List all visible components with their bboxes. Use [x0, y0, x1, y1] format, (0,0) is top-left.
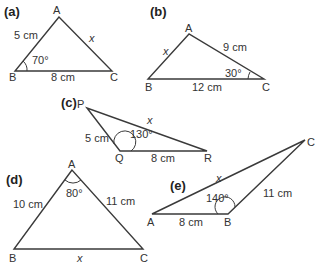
- angle-q-label: 130°: [130, 128, 153, 140]
- vertex-b: B: [224, 216, 231, 228]
- side-ab-label: 10 cm: [13, 198, 43, 210]
- vertex-c: C: [140, 252, 148, 264]
- side-ac-label: 9 cm: [223, 41, 247, 53]
- angle-arc-a: [65, 180, 81, 183]
- side-ac-label: 11 cm: [106, 195, 135, 207]
- part-label-a: (a): [4, 4, 20, 19]
- side-ab-label: 5 cm: [14, 29, 38, 41]
- vertex-r: R: [204, 152, 212, 164]
- side-bc-label: x: [76, 252, 83, 264]
- vertex-a: A: [68, 158, 76, 170]
- part-label-e: (e): [170, 178, 186, 193]
- part-label-d: (d): [6, 172, 23, 187]
- part-label-c: (c): [61, 95, 77, 110]
- vertex-a: A: [147, 216, 155, 228]
- angle-b-label: 70°: [32, 54, 49, 66]
- angle-c-label: 30°: [225, 67, 242, 79]
- triangle-a-edges: [15, 17, 112, 71]
- side-ab-label: x: [162, 45, 169, 57]
- vertex-a: A: [185, 22, 193, 34]
- side-bc-label: 12 cm: [192, 81, 222, 93]
- vertex-p: P: [77, 98, 84, 110]
- vertex-c: C: [110, 71, 118, 83]
- side-ab-label: 8 cm: [179, 216, 203, 228]
- triangle-d: (d) A B C 10 cm 11 cm x 80°: [6, 158, 148, 264]
- triangles-diagram: (a) A B C 5 cm x 8 cm 70° (b) A B C x 9 …: [0, 0, 315, 267]
- angle-b-label: 140°: [206, 192, 229, 204]
- vertex-b: B: [9, 252, 16, 264]
- side-ac-label: x: [88, 32, 95, 44]
- angle-a-label: 80°: [66, 187, 83, 199]
- vertex-q: Q: [115, 152, 124, 164]
- angle-arc-b: [23, 61, 27, 71]
- side-qr-label: 8 cm: [151, 152, 175, 164]
- side-bc-label: 11 cm: [263, 187, 292, 199]
- triangle-b: (b) A B C x 9 cm 12 cm 30°: [145, 4, 270, 93]
- triangle-a: (a) A B C 5 cm x 8 cm 70°: [4, 4, 118, 83]
- side-pq-label: 5 cm: [85, 132, 109, 144]
- triangle-c: (c) P Q R 5 cm x 8 cm 130°: [61, 95, 212, 164]
- vertex-c: C: [307, 136, 315, 148]
- side-pr-label: x: [146, 114, 153, 126]
- vertex-b: B: [145, 81, 152, 93]
- side-ac-label: x: [215, 172, 222, 184]
- triangle-e: (e) A B C 8 cm 11 cm x 140°: [147, 136, 315, 228]
- side-bc-label: 8 cm: [51, 71, 75, 83]
- vertex-c: C: [262, 81, 270, 93]
- angle-arc-c: [248, 72, 250, 79]
- vertex-a: A: [53, 4, 61, 16]
- part-label-b: (b): [150, 4, 167, 19]
- vertex-b: B: [9, 71, 16, 83]
